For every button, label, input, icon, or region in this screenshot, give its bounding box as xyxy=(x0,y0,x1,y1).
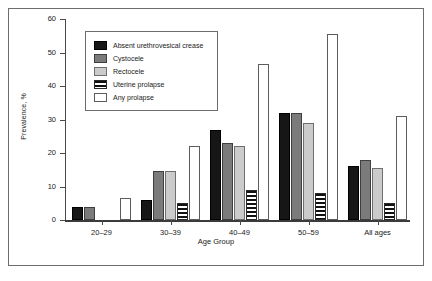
y-tick: 20 xyxy=(60,153,65,154)
x-tick xyxy=(171,220,172,225)
x-tick-label: 40–49 xyxy=(205,228,275,237)
chart-canvas: Prevalence, % Age Group 0102030405060 20… xyxy=(9,9,423,265)
bar-group: 50–59 xyxy=(279,19,338,220)
y-tick: 40 xyxy=(60,86,65,87)
figure-frame: Prevalence, % Age Group 0102030405060 20… xyxy=(8,8,424,266)
legend-item: Any prolapse xyxy=(94,91,210,103)
y-tick: 30 xyxy=(60,120,65,121)
legend-item: Rectocele xyxy=(94,65,210,77)
y-axis-label: Prevalence, % xyxy=(20,72,27,162)
y-tick: 60 xyxy=(60,19,65,20)
bar xyxy=(396,116,407,220)
legend-item: Absent urethrovesical crease xyxy=(94,39,210,51)
legend-swatch xyxy=(94,93,107,102)
legend-swatch xyxy=(94,54,107,63)
legend-item: Uterine prolapse xyxy=(94,78,210,90)
x-tick-label: 50–59 xyxy=(274,228,344,237)
y-tick: 10 xyxy=(60,187,65,188)
x-tick-label: 30–39 xyxy=(136,228,206,237)
bar xyxy=(315,193,326,220)
legend-swatch xyxy=(94,41,107,50)
bar xyxy=(372,168,383,220)
bar xyxy=(177,203,188,220)
x-axis-line xyxy=(65,220,410,222)
bar xyxy=(120,198,131,220)
bar xyxy=(348,166,359,220)
y-tick-label: 10 xyxy=(48,182,56,191)
y-tick-label: 60 xyxy=(48,14,56,23)
y-tick: 50 xyxy=(60,53,65,54)
bar xyxy=(84,207,95,220)
bar-group: 40–49 xyxy=(210,19,269,220)
x-axis-label: Age Group xyxy=(9,237,423,246)
bar xyxy=(141,200,152,220)
bar xyxy=(246,190,257,220)
bar xyxy=(72,207,83,220)
bar xyxy=(210,130,221,220)
bar xyxy=(327,34,338,220)
legend-label: Rectocele xyxy=(113,68,144,75)
bar-group: All ages xyxy=(348,19,407,220)
y-tick: 0 xyxy=(60,220,65,221)
x-tick xyxy=(378,220,379,225)
legend-label: Any prolapse xyxy=(113,94,154,101)
x-tick-label: 20–29 xyxy=(67,228,137,237)
x-tick xyxy=(240,220,241,225)
bar xyxy=(222,143,233,220)
legend-swatch xyxy=(94,67,107,76)
y-tick-label: 50 xyxy=(48,48,56,57)
bar xyxy=(189,146,200,220)
bar xyxy=(258,64,269,220)
bar xyxy=(291,113,302,220)
y-axis-line xyxy=(65,19,66,222)
legend-item: Cystocele xyxy=(94,52,210,64)
legend-label: Absent urethrovesical crease xyxy=(113,42,203,49)
bar xyxy=(384,203,395,220)
chart-legend: Absent urethrovesical creaseCystoceleRec… xyxy=(85,31,218,111)
legend-label: Cystocele xyxy=(113,55,144,62)
y-tick-label: 20 xyxy=(48,148,56,157)
bar xyxy=(303,123,314,220)
legend-swatch xyxy=(94,80,107,89)
legend-label: Uterine prolapse xyxy=(113,81,164,88)
bar xyxy=(165,171,176,220)
y-tick-label: 30 xyxy=(48,115,56,124)
x-tick xyxy=(309,220,310,225)
y-tick-label: 40 xyxy=(48,81,56,90)
bar xyxy=(279,113,290,220)
bar xyxy=(153,171,164,220)
y-tick-label: 0 xyxy=(52,215,56,224)
bar xyxy=(234,146,245,220)
x-tick xyxy=(102,220,103,225)
bar xyxy=(360,160,371,220)
x-tick-label: All ages xyxy=(343,228,413,237)
